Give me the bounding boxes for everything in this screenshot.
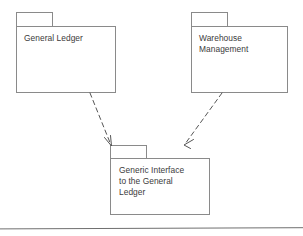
package-tab-generic-interface <box>110 145 147 159</box>
package-label-general-ledger: General Ledger <box>24 33 83 44</box>
package-general-ledger[interactable]: General Ledger <box>16 12 116 93</box>
package-generic-interface[interactable]: Generic Interface to the General Ledger <box>110 145 210 215</box>
package-warehouse-management[interactable]: Warehouse Management <box>191 12 288 93</box>
package-label-generic-interface: Generic Interface to the General Ledger <box>119 165 184 199</box>
horizontal-rule <box>0 227 303 230</box>
package-label-warehouse-management: Warehouse Management <box>199 33 248 55</box>
uml-package-diagram: General Ledger Warehouse Management Gene… <box>0 0 303 236</box>
dependency-arrow-warehouse-management-to-generic-interface <box>185 93 222 144</box>
dependency-arrow-general-ledger-to-generic-interface <box>90 93 111 145</box>
package-tab-general-ledger <box>16 12 53 27</box>
package-tab-warehouse-management <box>191 12 228 27</box>
